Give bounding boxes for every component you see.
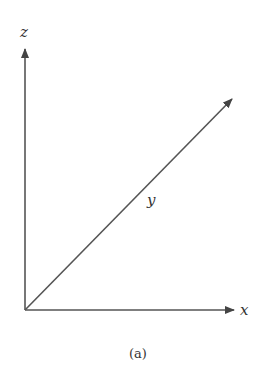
- z-axis-label: z: [19, 23, 28, 41]
- axes-diagram: z x y (a): [0, 0, 266, 374]
- figure-caption: (a): [129, 346, 147, 361]
- y-axis: [25, 99, 232, 310]
- y-axis-label: y: [146, 191, 156, 209]
- x-axis-label: x: [240, 301, 249, 319]
